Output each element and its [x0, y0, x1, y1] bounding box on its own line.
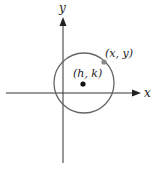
- y-axis-arrow-icon: [60, 17, 67, 26]
- circle-point: [101, 59, 106, 64]
- y-axis-label: y: [58, 1, 66, 15]
- x-axis-label: x: [144, 86, 151, 100]
- y-axis: [60, 17, 67, 163]
- x-axis-arrow-icon: [132, 90, 141, 97]
- x-axis: [6, 90, 141, 97]
- center-point: [80, 81, 85, 86]
- center-label: (h, k): [73, 67, 102, 80]
- circle-diagram: x y (h, k) (x, y): [0, 0, 160, 171]
- circle-point-label: (x, y): [105, 47, 133, 60]
